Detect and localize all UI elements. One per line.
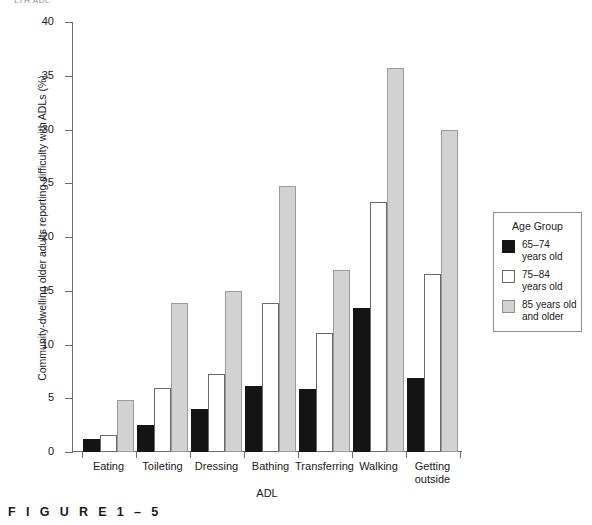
plot-area: 0510152025303540 EatingToiletingDressing… bbox=[72, 22, 462, 452]
bar bbox=[83, 439, 100, 452]
x-axis-title: ADL bbox=[72, 487, 462, 499]
bar bbox=[424, 274, 441, 452]
bar-group bbox=[137, 22, 188, 452]
y-tick-10: 10 bbox=[65, 345, 73, 346]
y-tick-25: 25 bbox=[65, 183, 73, 184]
bar bbox=[171, 303, 188, 452]
y-tick-15: 15 bbox=[65, 291, 73, 292]
bar bbox=[279, 186, 296, 452]
bar-group bbox=[83, 22, 134, 452]
legend-label-line: 85 years old bbox=[522, 299, 576, 311]
x-axis-end-tick-0 bbox=[82, 451, 83, 458]
legend-label-line: years old bbox=[522, 281, 563, 293]
y-axis-title: Community-dwelling older adults reportin… bbox=[36, 18, 48, 438]
bar bbox=[387, 68, 404, 452]
y-tick-label: 30 bbox=[42, 123, 54, 135]
bar-group bbox=[245, 22, 296, 452]
bar bbox=[137, 425, 154, 452]
y-tick-label: 5 bbox=[48, 391, 54, 403]
bar bbox=[117, 400, 134, 452]
legend-entry: 85 years oldand older bbox=[494, 299, 581, 322]
legend-label-line: 75–84 bbox=[522, 269, 563, 281]
legend: Age Group 65–74years old75–84years old85… bbox=[493, 212, 582, 332]
bar-group bbox=[191, 22, 242, 452]
legend-entry: 75–84years old bbox=[494, 269, 581, 292]
bar-group bbox=[299, 22, 350, 452]
x-axis-separator bbox=[352, 451, 353, 458]
bar-group bbox=[407, 22, 458, 452]
bar bbox=[100, 435, 117, 452]
bar bbox=[333, 270, 350, 452]
y-tick-40: 40 bbox=[65, 22, 73, 23]
y-tick-label: 15 bbox=[42, 284, 54, 296]
legend-label: 85 years oldand older bbox=[522, 299, 576, 322]
bar bbox=[370, 202, 387, 452]
bar bbox=[191, 409, 208, 452]
legend-label-line: and older bbox=[522, 311, 576, 323]
bar-group bbox=[353, 22, 404, 452]
bar bbox=[262, 303, 279, 452]
y-tick-label: 20 bbox=[42, 230, 54, 242]
figure-chart: Community-dwelling older adults reportin… bbox=[0, 0, 592, 525]
x-axis-separator bbox=[406, 451, 407, 458]
legend-label-line: years old bbox=[522, 251, 563, 263]
bar bbox=[299, 389, 316, 452]
y-tick-35: 35 bbox=[65, 76, 73, 77]
y-tick-label: 25 bbox=[42, 176, 54, 188]
y-tick-30: 30 bbox=[65, 130, 73, 131]
bar bbox=[316, 333, 333, 452]
y-tick-label: 10 bbox=[42, 338, 54, 350]
x-axis-separator bbox=[244, 451, 245, 458]
x-axis-separator bbox=[190, 451, 191, 458]
x-axis-label-line: Getting bbox=[391, 460, 475, 473]
legend-entries: 65–74years old75–84years old85 years old… bbox=[494, 239, 581, 322]
y-tick-0: 0 bbox=[65, 452, 73, 453]
bar bbox=[154, 388, 171, 453]
bar bbox=[225, 291, 242, 452]
x-axis-separator bbox=[136, 451, 137, 458]
x-axis-end-tick-1 bbox=[460, 451, 461, 458]
legend-label-line: 65–74 bbox=[522, 239, 563, 251]
legend-label: 65–74years old bbox=[522, 239, 563, 262]
y-tick-label: 40 bbox=[42, 15, 54, 27]
figure-caption: F I G U R E 1 – 5 bbox=[8, 505, 162, 519]
x-axis-label: Gettingoutside bbox=[391, 460, 475, 486]
legend-entry: 65–74years old bbox=[494, 239, 581, 262]
y-tick-20: 20 bbox=[65, 237, 73, 238]
legend-swatch bbox=[502, 300, 515, 313]
y-tick-5: 5 bbox=[65, 398, 73, 399]
x-axis-label-line: outside bbox=[391, 473, 475, 486]
legend-swatch bbox=[502, 240, 515, 253]
bar bbox=[441, 130, 458, 453]
bar bbox=[353, 308, 370, 452]
bar bbox=[208, 374, 225, 452]
y-tick-label: 35 bbox=[42, 69, 54, 81]
legend-swatch bbox=[502, 270, 515, 283]
legend-label: 75–84years old bbox=[522, 269, 563, 292]
x-axis-separator bbox=[298, 451, 299, 458]
bar bbox=[407, 378, 424, 452]
legend-title: Age Group bbox=[494, 220, 581, 232]
y-tick-label: 0 bbox=[48, 445, 54, 457]
bar bbox=[245, 386, 262, 452]
